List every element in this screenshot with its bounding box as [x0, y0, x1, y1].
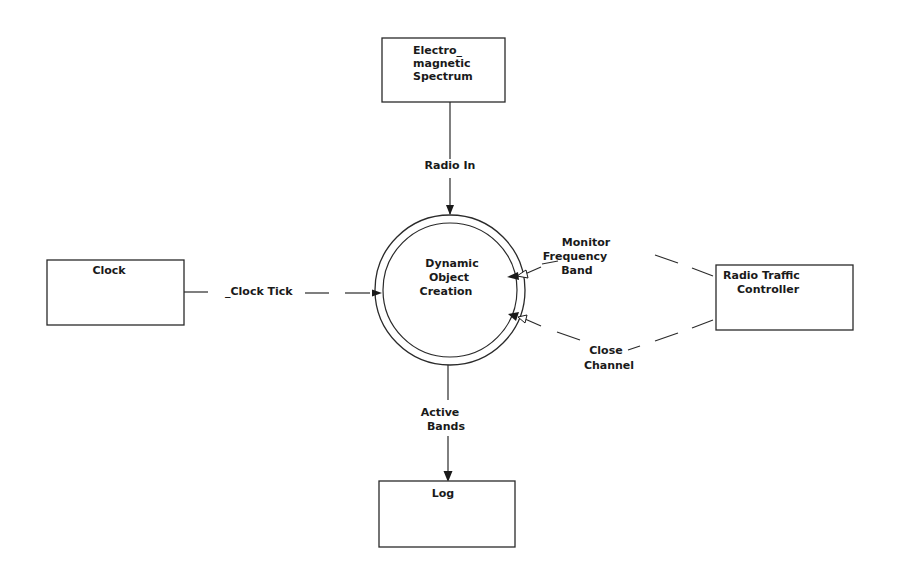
flow-label-line: Monitor: [562, 236, 611, 249]
flow-label-line: Active: [421, 406, 460, 419]
flow-active-bands[interactable]: Active Bands: [421, 365, 466, 482]
flow-close-channel[interactable]: Close Channel: [508, 312, 713, 372]
flow-dash: [655, 333, 678, 341]
process-dynamic-object-creation[interactable]: Dynamic Object Creation: [375, 215, 525, 365]
entity-radio-traffic-controller[interactable]: Radio Traffic Controller: [716, 265, 853, 330]
flow-monitor-frequency-band[interactable]: Monitor Frequency Band: [507, 236, 713, 280]
flow-dash: [525, 267, 541, 274]
flow-label-line: Channel: [584, 359, 634, 372]
flow-dash: [692, 320, 713, 328]
entity-electromagnetic-spectrum[interactable]: Electro_ magnetic Spectrum: [382, 38, 505, 102]
entity-label-line: Electro_: [413, 44, 463, 57]
flow-dash: [692, 268, 713, 276]
process-label-line: Creation: [420, 285, 473, 298]
entity-label-line: Radio Traffic: [723, 269, 800, 282]
flow-label-line: Band: [561, 264, 593, 277]
entity-clock[interactable]: Clock: [47, 260, 184, 325]
flow-clock-tick[interactable]: _Clock Tick: [184, 285, 382, 298]
flow-label-line: Frequency: [543, 250, 607, 263]
entity-label-line: Spectrum: [413, 70, 473, 83]
flow-label-line: Bands: [427, 420, 466, 433]
entity-label-line: magnetic: [413, 57, 471, 70]
process-label-line: Dynamic: [425, 257, 478, 270]
entity-label-line: Clock: [92, 264, 126, 277]
entity-label-line: Controller: [737, 283, 800, 296]
entity-log[interactable]: Log: [379, 481, 515, 547]
flow-label: Radio In: [425, 159, 476, 172]
data-flow-diagram: Electro_ magnetic Spectrum Radio In Dyna…: [0, 0, 897, 580]
flow-label-line: Close: [589, 344, 622, 357]
flow-dash: [525, 319, 541, 326]
flow-dash: [557, 332, 580, 340]
flow-label: _Clock Tick: [225, 285, 293, 298]
process-label-line: Object: [429, 271, 469, 284]
flow-dash: [655, 255, 678, 263]
entity-label-line: Log: [432, 487, 454, 500]
flow-dash: [628, 346, 640, 350]
